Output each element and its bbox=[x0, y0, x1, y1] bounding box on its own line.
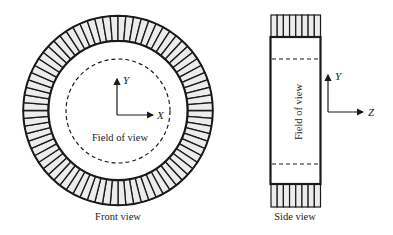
front-axes: Y X bbox=[117, 74, 165, 121]
detector-segment bbox=[271, 15, 277, 37]
detector-segment bbox=[290, 184, 296, 207]
detector-segment bbox=[296, 15, 302, 37]
y-axis-label: Y bbox=[335, 70, 343, 82]
bottom-detector-block bbox=[271, 184, 321, 207]
detector-segment bbox=[308, 15, 314, 37]
x-axis-label: X bbox=[156, 109, 165, 121]
detector-segment bbox=[314, 184, 320, 207]
front-view: Y X Field of view Front view bbox=[23, 16, 213, 223]
detector-segment bbox=[283, 15, 289, 37]
detector-segment bbox=[277, 184, 283, 207]
detector-segment bbox=[290, 15, 296, 37]
side-view-caption: Side view bbox=[274, 211, 316, 222]
detector-segment bbox=[277, 15, 283, 37]
front-view-caption: Front view bbox=[95, 211, 141, 222]
detector-segment bbox=[271, 184, 277, 207]
detector-segment bbox=[308, 184, 314, 207]
side-axes: Y Z bbox=[328, 70, 375, 118]
front-field-of-view-label: Field of view bbox=[92, 132, 148, 143]
detector-segment bbox=[302, 15, 308, 37]
ring-inner-edge bbox=[49, 41, 188, 180]
z-axis-label: Z bbox=[368, 106, 375, 118]
detector-segment bbox=[110, 16, 118, 41]
detector-ring bbox=[24, 16, 213, 205]
top-detector-block bbox=[271, 15, 321, 37]
field-of-view-circle bbox=[66, 59, 170, 163]
y-axis-label: Y bbox=[123, 74, 131, 86]
detector-segment bbox=[296, 184, 302, 207]
detector-segment bbox=[302, 184, 308, 207]
detector-segment bbox=[24, 111, 49, 119]
detector-segment bbox=[314, 15, 320, 37]
detector-segment bbox=[188, 103, 213, 111]
side-field-of-view-label: Field of view bbox=[293, 84, 304, 140]
scanner-geometry-diagram: Y X Field of view Front view Field of vi… bbox=[0, 0, 393, 235]
detector-segment bbox=[283, 184, 289, 207]
detector-segment bbox=[118, 180, 126, 205]
side-view: Field of view Y Z Side view bbox=[271, 15, 376, 222]
